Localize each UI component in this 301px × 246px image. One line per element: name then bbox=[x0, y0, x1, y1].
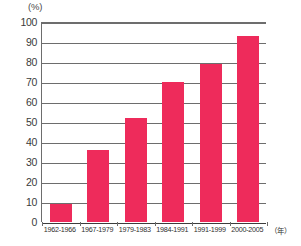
x-axis-category-label: 2000-2005 bbox=[231, 225, 263, 234]
x-axis-category-label: 1962-1966 bbox=[44, 225, 76, 234]
x-axis-category-label: 1984-1991 bbox=[156, 225, 188, 234]
y-axis-tick-label: 70 bbox=[3, 76, 37, 88]
y-axis-tick-label: 80 bbox=[3, 56, 37, 68]
y-axis-unit-label: (%) bbox=[28, 1, 42, 12]
x-axis-category-label: 1979-1983 bbox=[119, 225, 151, 234]
gridline bbox=[42, 63, 266, 64]
y-axis-tick-label: 100 bbox=[3, 16, 37, 28]
gridline bbox=[42, 143, 266, 144]
bar bbox=[87, 150, 109, 222]
gridline bbox=[42, 123, 266, 124]
y-axis-tick-label: 40 bbox=[3, 136, 37, 148]
gridline bbox=[42, 43, 266, 44]
gridline bbox=[42, 163, 266, 164]
y-axis-tick-label: 20 bbox=[3, 176, 37, 188]
gridline bbox=[42, 183, 266, 184]
bar bbox=[237, 36, 259, 222]
gridline bbox=[42, 203, 266, 204]
y-axis-tick-label: 0 bbox=[3, 216, 37, 228]
y-axis-tick-label: 90 bbox=[3, 36, 37, 48]
x-axis-category-label: 1967-1979 bbox=[81, 225, 113, 234]
plot-area bbox=[41, 22, 266, 222]
gridline bbox=[42, 83, 266, 84]
bar-chart: (%) 1009080706050403020100 1962-19661967… bbox=[0, 0, 301, 246]
x-axis-tick bbox=[267, 222, 268, 226]
bar bbox=[162, 82, 184, 222]
x-axis-category-label: 1991-1999 bbox=[194, 225, 226, 234]
bar bbox=[125, 118, 147, 222]
gridline bbox=[42, 23, 266, 24]
bar bbox=[50, 204, 72, 222]
y-axis-tick-label: 30 bbox=[3, 156, 37, 168]
gridline bbox=[42, 103, 266, 104]
x-axis-unit-label: （年） bbox=[270, 225, 290, 236]
y-axis-tick-label: 10 bbox=[3, 196, 37, 208]
bar bbox=[200, 64, 222, 222]
y-axis-tick-label: 60 bbox=[3, 96, 37, 108]
y-axis-tick-label: 50 bbox=[3, 116, 37, 128]
